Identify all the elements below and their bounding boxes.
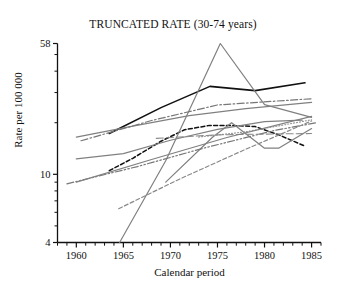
svg-text:10: 10 [40, 169, 51, 180]
x-axis-tick-labels: 196019651970197519801985 [66, 250, 322, 261]
svg-text:58: 58 [40, 38, 51, 49]
series-line [76, 120, 302, 159]
svg-text:1965: 1965 [113, 250, 134, 261]
axis-lines [58, 44, 322, 243]
svg-text:1980: 1980 [254, 250, 275, 261]
x-axis-ticks [58, 243, 322, 248]
y-axis-tick-labels: 58104 [40, 38, 51, 248]
x-axis-title: Calendar period [57, 266, 322, 278]
chart-container: TRUNCATED RATE (30-74 years) 58104 19601… [0, 0, 346, 290]
svg-text:1985: 1985 [301, 250, 322, 261]
series-line [120, 44, 312, 243]
y-axis-ticks [53, 44, 58, 243]
svg-text:4: 4 [45, 237, 51, 248]
svg-text:1970: 1970 [160, 250, 181, 261]
y-axis-title: Rate per 100 000 [12, 30, 24, 190]
svg-text:1960: 1960 [66, 250, 87, 261]
svg-text:1975: 1975 [207, 250, 228, 261]
chart-plot-area: 58104 196019651970197519801985 [0, 0, 346, 290]
data-series-group [67, 44, 316, 243]
